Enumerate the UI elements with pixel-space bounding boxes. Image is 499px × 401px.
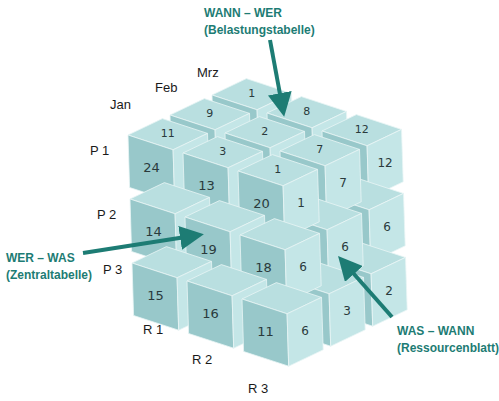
cube-right-value: 6 [301,324,309,338]
cube-top-value: 2 [261,125,268,138]
cube-right-value: 3 [343,304,351,318]
cube-right-value: 6 [341,240,349,254]
cube-front-value: 16 [202,306,219,321]
callout-right: WAS – WANN (Ressourcenblatt) [397,323,499,357]
cube-right-value: 2 [385,284,393,298]
cube-front-value: 20 [253,196,270,211]
cube-front-value: 18 [255,260,272,275]
cube-front-value: 24 [143,160,160,175]
callout-right-subtitle: (Ressourcenblatt) [397,340,499,357]
label-person-p2: P 2 [97,207,116,222]
callout-left: WER – WAS (Zentraltabelle) [6,250,92,284]
cube-right-value: 6 [299,260,307,274]
cube-top-value: 8 [303,105,310,118]
cube-top-value: 1 [248,87,255,100]
label-month-jan: Jan [110,97,131,112]
callout-top: WANN – WER (Belastungstabelle) [204,5,315,39]
label-resource-r3: R 3 [248,381,268,396]
cube-front-value: 14 [145,224,162,239]
label-month-mrz: Mrz [197,65,219,80]
label-resource-r2: R 2 [192,352,212,367]
cube-top-value: 7 [316,143,323,156]
label-resource-r1: R 1 [143,322,163,337]
cube-front-value: 15 [147,288,164,303]
callout-top-title: WANN – WER [204,5,315,22]
callout-left-title: WER – WAS [6,250,92,267]
cube-front-value: 19 [200,242,217,257]
callout-left-subtitle: (Zentraltabelle) [6,267,92,284]
cube-top-value: 9 [206,107,213,120]
cube-top-value: 12 [355,123,369,136]
label-person-p1: P 1 [90,143,109,158]
cube-right-value: 1 [297,196,305,210]
cube-right-value: 12 [377,156,392,170]
label-month-feb: Feb [155,80,177,95]
cube-front-value: 13 [198,178,215,193]
cube-top-value: 11 [161,127,175,140]
cube-front-value: 11 [257,324,274,339]
callout-right-title: WAS – WANN [397,323,499,340]
cube-right-value: 6 [383,220,391,234]
cube-right-value: 7 [339,176,347,190]
callout-top-subtitle: (Belastungstabelle) [204,22,315,39]
label-person-p3: P 3 [103,262,122,277]
cube-top-value: 1 [274,163,281,176]
cube-top-value: 3 [219,145,226,158]
